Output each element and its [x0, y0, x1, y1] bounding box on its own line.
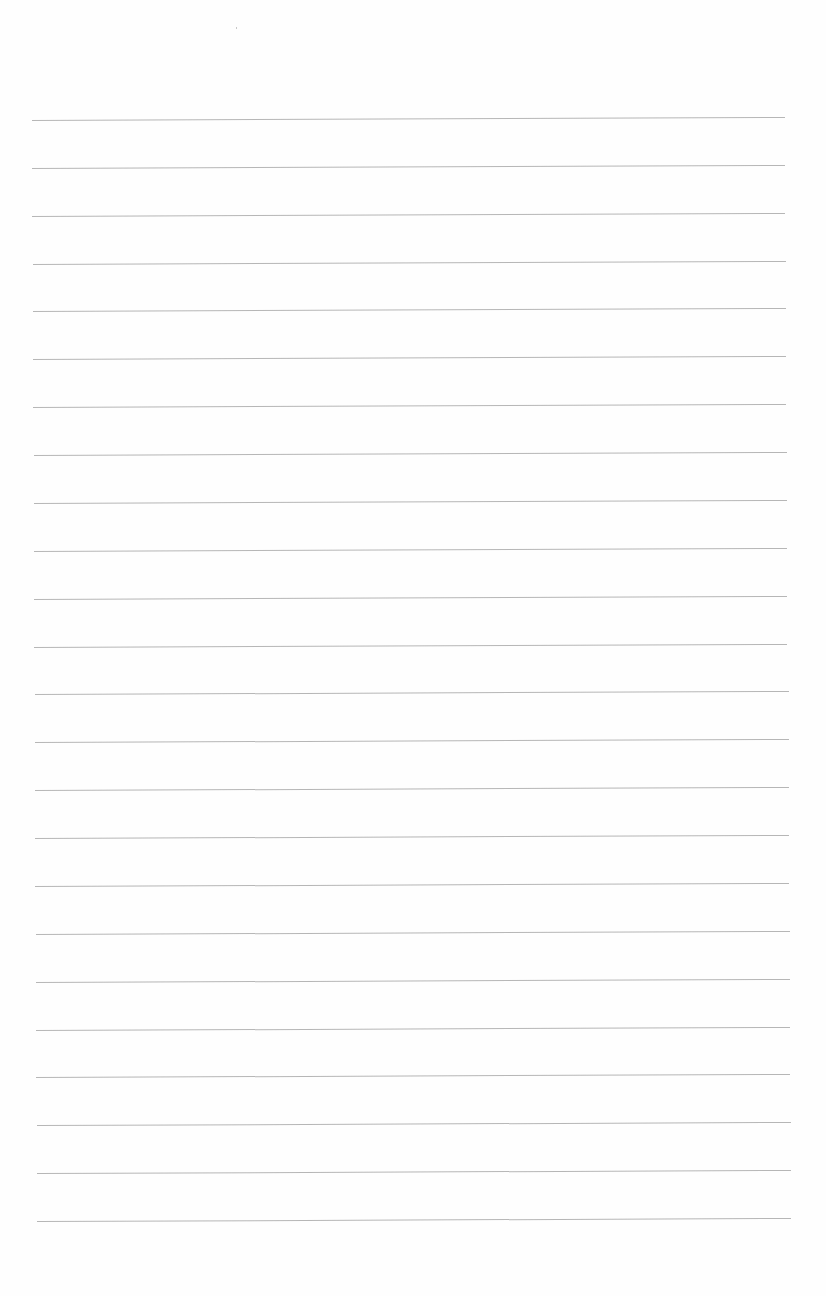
ruled-line — [34, 548, 787, 552]
ruled-line — [35, 691, 789, 695]
ruled-line — [33, 356, 786, 360]
ruled-line — [37, 1122, 791, 1126]
ruled-line — [34, 596, 787, 600]
ruled-line — [37, 1218, 791, 1222]
ruled-line — [33, 404, 786, 408]
ruled-line — [34, 452, 787, 456]
ruled-line — [36, 979, 790, 983]
ruled-line — [33, 308, 786, 312]
ruled-line — [37, 1170, 791, 1174]
ruled-line — [32, 213, 785, 217]
lined-paper-page — [0, 0, 826, 1296]
paper-speck — [236, 27, 237, 29]
ruled-line — [35, 739, 789, 743]
ruled-line — [34, 500, 787, 504]
ruled-line — [32, 117, 785, 121]
ruled-line — [35, 835, 789, 839]
ruled-line — [36, 931, 790, 935]
ruled-line — [35, 787, 789, 791]
ruled-line — [36, 1074, 790, 1078]
ruled-line — [35, 883, 789, 887]
ruled-line — [34, 644, 787, 648]
ruled-line — [33, 261, 786, 265]
ruled-line — [32, 165, 785, 169]
ruled-line — [36, 1027, 790, 1031]
